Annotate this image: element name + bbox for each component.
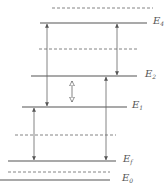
label-e2: E2 (145, 69, 156, 80)
label-e4: E4 (153, 16, 164, 27)
label-e0: E0 (122, 173, 133, 184)
energy-level-diagram (0, 0, 168, 191)
label-ef: Ef (123, 154, 133, 165)
label-e1: E1 (132, 100, 143, 111)
